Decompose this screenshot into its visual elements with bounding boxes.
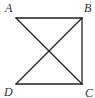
geometry-figure: A B C D xyxy=(0,0,95,98)
point-label-c: C xyxy=(85,86,94,98)
point-label-b: B xyxy=(84,1,92,15)
point-label-a: A xyxy=(4,1,13,15)
point-label-d: D xyxy=(3,85,13,98)
quadrilateral-diagram: A B C D xyxy=(0,0,95,98)
